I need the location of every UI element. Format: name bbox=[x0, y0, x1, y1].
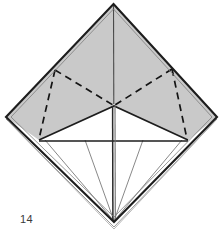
caption-ghost-text bbox=[60, 236, 210, 244]
origami-diagram-svg bbox=[0, 0, 222, 245]
origami-diagram-page: 14 bbox=[0, 0, 222, 245]
step-number-label: 14 bbox=[20, 213, 33, 225]
